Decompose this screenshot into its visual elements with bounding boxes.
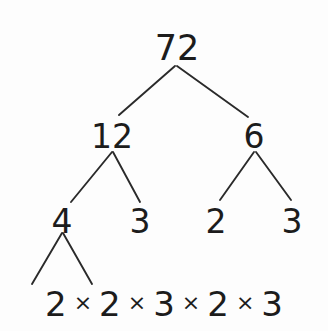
node-level2-2-right: 2 (206, 205, 227, 238)
node-level1-12: 12 (91, 120, 133, 153)
edge-6-3 (256, 152, 291, 200)
node-level2-4: 4 (52, 205, 73, 238)
product-factor-3: 3 (153, 287, 175, 321)
edge-12-4 (71, 152, 112, 202)
multiplication-sign-4: × (229, 292, 261, 314)
node-level2-3-left: 3 (130, 205, 151, 238)
product-factor-2: 2 (99, 287, 121, 321)
product-factor-1: 2 (45, 287, 67, 321)
edge-72-12 (119, 66, 175, 115)
prime-factorization-row: 2 × 2 × 3 × 2 × 3 (45, 287, 283, 321)
node-level2-3-right: 3 (282, 205, 303, 238)
multiplication-sign-1: × (67, 292, 99, 314)
factor-tree-canvas: 72 12 6 4 3 2 3 2 × 2 × 3 × 2 × 3 (0, 0, 328, 331)
edge-6-2 (220, 152, 254, 200)
multiplication-sign-2: × (121, 292, 153, 314)
multiplication-sign-3: × (175, 292, 207, 314)
edge-72-6 (177, 66, 248, 117)
edge-12-3 (113, 152, 140, 202)
product-factor-5: 3 (261, 287, 283, 321)
node-level1-6: 6 (244, 120, 265, 153)
product-factor-4: 2 (207, 287, 229, 321)
node-root-72: 72 (155, 31, 200, 66)
